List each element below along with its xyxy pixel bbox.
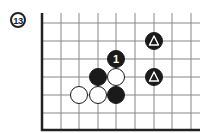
black-stone — [108, 87, 125, 104]
white-stone — [90, 87, 107, 104]
black-stone — [146, 33, 163, 50]
white-stone — [71, 87, 88, 104]
black-stone — [146, 69, 163, 86]
move-number-label: 1 — [113, 53, 119, 65]
go-board: 1 — [0, 0, 213, 133]
white-stone — [108, 69, 125, 86]
black-stone — [90, 69, 107, 86]
